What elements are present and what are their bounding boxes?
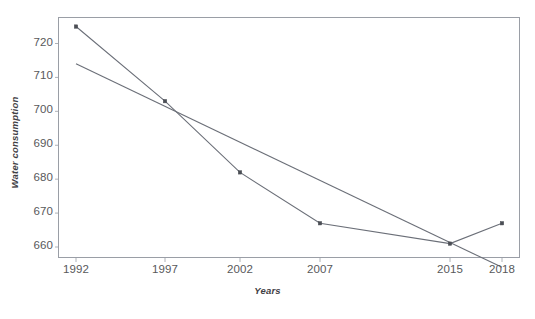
y-axis-tick-label: 710 bbox=[34, 69, 54, 81]
x-axis-title: Years bbox=[0, 285, 535, 296]
chart-figure: 720710700690680670660 Water consumption … bbox=[0, 0, 535, 319]
y-axis-tick-label: 660 bbox=[34, 239, 54, 251]
y-axis-tick-label: 690 bbox=[34, 137, 54, 149]
x-axis-tick-label: 1997 bbox=[152, 263, 178, 275]
y-axis-tick-label: 720 bbox=[34, 36, 54, 48]
x-axis-tick-label: 2007 bbox=[307, 263, 333, 275]
x-axis-tick-label: 1992 bbox=[63, 263, 89, 275]
y-axis-tick-label: 680 bbox=[34, 171, 54, 183]
y-axis-title: Water consumption bbox=[9, 83, 20, 203]
x-axis-tick-label: 2015 bbox=[437, 263, 463, 275]
x-axis-tick-marks bbox=[76, 258, 502, 262]
y-axis-tick-label: 670 bbox=[34, 205, 54, 217]
y-axis-tick-label: 700 bbox=[34, 103, 54, 115]
figure-caption-fragment bbox=[4, 310, 531, 319]
plot-frame bbox=[58, 17, 520, 258]
x-axis-tick-label: 2002 bbox=[227, 263, 253, 275]
x-axis-tick-label: 2018 bbox=[489, 263, 515, 275]
